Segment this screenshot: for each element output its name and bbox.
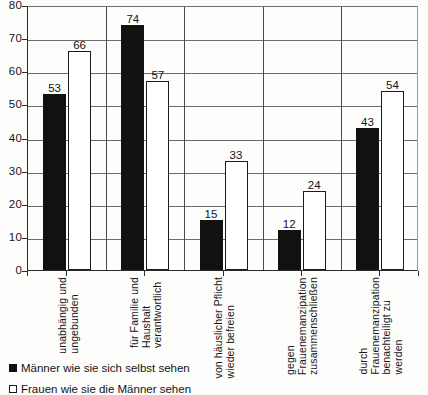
bar [381,91,404,270]
legend-label: Frauen wie sie die Männer sehen [21,383,191,395]
bar-value-label: 53 [37,82,72,94]
x-axis-tick-mark [301,271,302,276]
legend-item: Männer wie sie sich selbst sehen [9,362,190,374]
y-axis-tick-label: 0 [0,265,22,276]
bar-value-label: 66 [62,39,97,51]
bar-value-label: 15 [194,208,229,220]
category-label-line: werden [392,277,404,375]
bar [121,25,144,270]
category-label-line: von häuslicher Pflicht [213,277,225,378]
bar [200,220,223,270]
x-axis-category-label: von häuslicher Pflichtwieder befreien [213,277,236,378]
category-label-line: ungebunden [68,277,80,354]
category-label-line: für Familie und [129,277,141,348]
legend-item: Frauen wie sie die Männer sehen [9,383,191,395]
x-axis-category-label: durchFrauenemanzipationbenachteiligt zuw… [358,277,404,375]
bar [356,128,379,270]
bar-value-label: 24 [297,179,332,191]
bar-value-label: 57 [140,69,175,81]
bar-value-label: 12 [272,218,307,230]
x-axis-category-label: gegenFrauenemanzipationzusammenschließen [285,277,320,375]
category-label-line: verantwortlich [152,277,164,348]
bar [43,94,66,270]
y-axis-tick-label: 40 [0,133,22,144]
y-axis-tick-label: 20 [0,199,22,210]
legend-label: Männer wie sie sich selbst sehen [21,362,190,374]
plot-area: 53667457153312244354 [27,6,418,271]
bar [225,161,248,270]
bar [303,191,326,271]
x-axis-end-tick [418,271,419,276]
category-label-line: zusammenschließen [308,277,320,375]
category-label-line: wieder befreien [225,277,237,378]
bar-value-label: 43 [350,116,385,128]
legend-swatch-light [9,385,17,393]
y-axis-tick-label: 10 [0,232,22,243]
group-separator [184,7,185,270]
y-axis-tick-label: 80 [0,0,22,11]
x-axis-tick-mark [66,271,67,276]
x-axis-tick-mark [223,271,224,276]
bar [146,81,169,270]
category-label-line: durch [358,277,370,375]
bar-value-label: 74 [115,13,150,25]
x-axis-tick-mark [379,271,380,276]
x-axis-end-tick [27,271,28,276]
group-separator [341,7,342,270]
y-axis-tick-label: 50 [0,99,22,110]
bar [68,51,91,270]
bar [278,230,301,270]
y-axis-tick-label: 60 [0,66,22,77]
x-axis-category-label: für Familie undHaushaltverantwortlich [129,277,164,348]
category-label-line: unabhängig und [57,277,69,354]
legend-swatch-dark [9,364,17,372]
y-axis-tick-label: 30 [0,166,22,177]
x-axis-tick-mark [144,271,145,276]
bar-value-label: 54 [375,79,410,91]
y-axis-tick-label: 70 [0,33,22,44]
category-label-line: benachteiligt zu [381,277,393,375]
bar-value-label: 33 [219,149,254,161]
group-separator [106,7,107,270]
x-axis-category-label: unabhängig undungebunden [57,277,80,354]
group-separator [263,7,264,270]
